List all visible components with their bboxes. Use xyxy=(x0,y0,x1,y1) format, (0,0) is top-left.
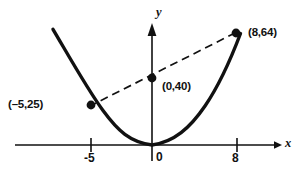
origin-label: 0 xyxy=(156,151,163,163)
point-marker-right xyxy=(232,29,241,38)
x-tick-label-neg5: -5 xyxy=(84,152,95,164)
point-label-right: (8,64) xyxy=(248,27,277,39)
point-marker-left xyxy=(87,101,96,110)
point-marker-intercept xyxy=(148,74,157,83)
y-axis-label: y xyxy=(156,6,162,19)
x-axis-label: x xyxy=(285,137,291,150)
parabola-secant-figure: (–5,25) (0,40) (8,64) -5 0 8 x y xyxy=(0,0,303,179)
secant-line xyxy=(89,32,238,107)
x-tick-label-eight: 8 xyxy=(232,152,239,164)
y-axis xyxy=(148,23,157,161)
point-label-left: (–5,25) xyxy=(8,99,43,111)
parabola-curve xyxy=(53,29,241,145)
point-label-intercept: (0,40) xyxy=(162,81,191,93)
